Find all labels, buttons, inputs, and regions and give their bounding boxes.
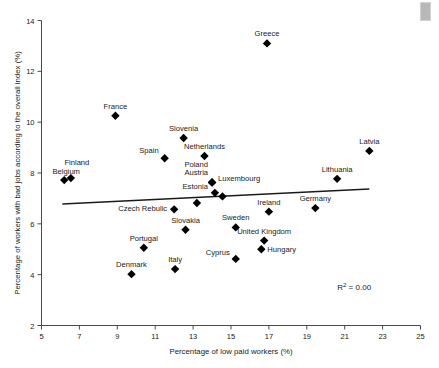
axis-titles-group: Percentage of low paid workers (%) Perce… — [13, 51, 293, 356]
annotations-group: R2 = 0.00 — [337, 282, 371, 292]
y-tick-label: 10 — [26, 118, 34, 127]
data-point-label: Austria — [184, 168, 208, 177]
x-axis-tick-labels: 5791113151719212325 — [39, 332, 424, 341]
x-tick-label: 9 — [115, 332, 119, 341]
y-tick-label: 6 — [30, 220, 34, 229]
data-point-marker — [200, 152, 208, 160]
x-axis-title: Percentage of low paid workers (%) — [169, 347, 292, 356]
data-point-marker — [140, 244, 148, 252]
data-point-marker — [365, 147, 373, 155]
data-point-label: Finland — [64, 158, 89, 167]
data-point-marker — [260, 236, 268, 244]
data-point-marker — [193, 199, 201, 207]
x-tick-label: 23 — [378, 332, 386, 341]
data-point-label: Portugal — [130, 234, 159, 243]
x-tick-label: 5 — [39, 332, 43, 341]
scatter-plot: 5791113151719212325 2468101214 Percentag… — [0, 0, 439, 368]
data-point-marker — [208, 178, 216, 186]
data-point-label: Estonia — [183, 182, 209, 191]
x-tick-label: 11 — [151, 332, 159, 341]
data-point-marker — [60, 176, 68, 184]
data-point-label: Latvia — [359, 137, 380, 146]
data-point-label: Germany — [300, 194, 331, 203]
y-tick-label: 8 — [30, 169, 34, 178]
data-point-label: Slovakia — [171, 216, 200, 225]
point-labels-group: GreeceFranceSloveniaLatviaNetherlandsSpa… — [53, 29, 381, 269]
x-tick-label: 7 — [77, 332, 81, 341]
y-tick-label: 12 — [26, 67, 34, 76]
x-tick-label: 13 — [189, 332, 197, 341]
data-point-marker — [333, 175, 341, 183]
axis-lines — [42, 21, 421, 326]
data-point-label: Slovenia — [169, 124, 199, 133]
y-tick-label: 2 — [30, 322, 34, 331]
r-squared-annotation: R2 = 0.00 — [337, 282, 371, 292]
data-point-marker — [232, 255, 240, 263]
y-tick-label: 4 — [30, 271, 34, 280]
data-points-group — [60, 39, 373, 278]
data-point-marker — [179, 134, 187, 142]
data-point-marker — [170, 205, 178, 213]
data-point-label: Czech Rebulic — [118, 204, 167, 213]
data-point-marker — [311, 204, 319, 212]
data-point-label: Cyprus — [206, 248, 230, 257]
data-point-marker — [257, 245, 265, 253]
x-tick-label: 21 — [341, 332, 349, 341]
data-point-marker — [181, 225, 189, 233]
data-point-label: Belgium — [53, 167, 80, 176]
x-tick-label: 19 — [303, 332, 311, 341]
data-point-label: Ireland — [257, 198, 280, 207]
corner-marker — [420, 2, 431, 21]
data-point-marker — [171, 265, 179, 273]
data-point-marker — [218, 192, 226, 200]
data-point-label: Greece — [255, 29, 280, 38]
data-point-marker — [263, 39, 271, 47]
data-point-label: Denmark — [116, 260, 147, 269]
data-point-label: Netherlands — [184, 142, 225, 151]
data-point-label: Hungary — [267, 245, 296, 254]
data-point-marker — [111, 112, 119, 120]
data-point-label: Poland — [184, 160, 208, 169]
data-point-label: Lithuania — [322, 165, 354, 174]
data-point-label: Sweden — [222, 213, 249, 222]
scatter-chart-figure: 5791113151719212325 2468101214 Percentag… — [0, 0, 439, 368]
data-point-label: Italy — [168, 255, 182, 264]
data-point-marker — [127, 270, 135, 278]
data-point-marker — [160, 154, 168, 162]
x-tick-label: 17 — [265, 332, 273, 341]
y-axis-title: Percentage of workers with bad jobs acco… — [13, 51, 22, 295]
x-tick-label: 25 — [416, 332, 424, 341]
y-axis-tick-labels: 2468101214 — [26, 17, 34, 331]
data-point-label: United Kingdom — [237, 227, 291, 236]
x-tick-label: 15 — [227, 332, 235, 341]
y-tick-label: 14 — [26, 17, 34, 26]
data-point-label: France — [104, 102, 128, 111]
data-point-label: Luxembourg — [218, 174, 260, 183]
data-point-label: Spain — [139, 146, 158, 155]
data-point-marker — [265, 207, 273, 215]
